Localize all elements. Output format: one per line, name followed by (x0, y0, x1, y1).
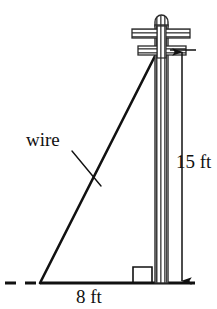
pole-front-overlay (157, 26, 166, 58)
wire-label: wire (26, 130, 60, 149)
base-dimension-label: 8 ft (76, 287, 102, 306)
height-dimension-label: 15 ft (176, 152, 211, 171)
wire-line (40, 50, 158, 283)
geometry-figure: wire 15 ft 8 ft (0, 0, 217, 309)
right-angle-marker-icon (133, 267, 152, 283)
